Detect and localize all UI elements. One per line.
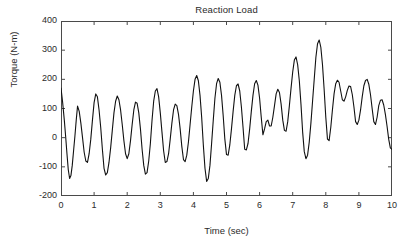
plot-area: [61, 21, 392, 196]
x-tick-label: 3: [148, 201, 172, 210]
x-tick-label: 5: [215, 201, 239, 210]
x-tick-label: 4: [181, 201, 205, 210]
x-axis-label: Time (sec): [61, 225, 392, 236]
x-tick-label: 10: [380, 201, 404, 210]
axes-box: [62, 22, 392, 196]
x-tick-label: 8: [314, 201, 338, 210]
x-tick-label: 1: [82, 201, 106, 210]
y-axis-label: Torque (N-m): [8, 0, 19, 120]
x-tick-label: 7: [281, 201, 305, 210]
x-tick-label: 2: [115, 201, 139, 210]
x-tick-label: 6: [248, 201, 272, 210]
plot-svg: [61, 21, 392, 196]
figure-canvas: Reaction Load -200-1000100200300400 0123…: [0, 0, 415, 249]
x-tick-label: 9: [347, 201, 371, 210]
x-tick-label: 0: [49, 201, 73, 210]
